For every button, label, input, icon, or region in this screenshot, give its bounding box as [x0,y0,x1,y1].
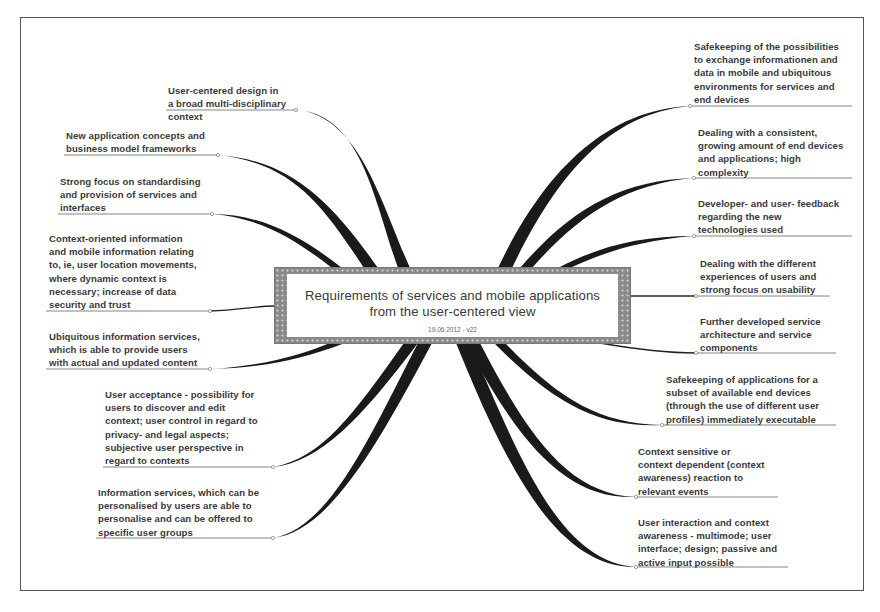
connector-dot-icon [692,176,695,179]
connector-dot-icon [271,536,274,539]
connector-dot-icon [692,234,695,237]
connector-dot-icon [271,465,274,468]
node-right-2[interactable]: Dealing with a consistent, growing amoun… [698,126,843,179]
branch-left-4 [210,306,275,311]
branch-left-2 [218,155,378,268]
connector-dot-icon [208,367,211,370]
branch-left-3 [212,214,342,268]
connector-dot-icon [294,108,297,111]
node-right-6[interactable]: Safekeeping of applications for a subset… [666,373,819,426]
connector-dot-icon [216,153,219,156]
branch-left-7 [273,343,432,538]
node-left-3[interactable]: Strong focus on standardising and provis… [60,175,201,215]
node-left-2[interactable]: New application concepts and business mo… [66,129,205,155]
connector-dot-icon [694,294,697,297]
node-right-5[interactable]: Further developed service architecture a… [700,315,821,355]
node-left-1[interactable]: User-centered design in a broad multi-di… [168,84,286,124]
node-right-8[interactable]: User interaction and context awareness -… [638,516,777,569]
node-right-4[interactable]: Dealing with the different experiences o… [700,257,816,297]
branch-right-5 [600,343,696,353]
central-topic[interactable]: Requirements of services and mobile appl… [275,268,630,343]
node-left-4[interactable]: Context-oriented information and mobile … [49,232,197,311]
central-topic-title: Requirements of services and mobile appl… [287,288,618,320]
connector-dot-icon [688,104,691,107]
connector-dot-icon [660,423,663,426]
connector-dot-icon [694,351,697,354]
node-left-6[interactable]: User acceptance - possibility for users … [105,388,258,467]
node-left-7[interactable]: Information services, which can be perso… [98,486,259,539]
node-right-1[interactable]: Safekeeping of the possibilities to exch… [694,40,839,106]
node-left-5[interactable]: Ubiquitous information services, which i… [49,330,200,370]
branch-left-5 [210,343,345,369]
central-topic-date-version: 19.06.2012 - v22 [287,326,618,333]
node-right-3[interactable]: Developer- and user- feedback regarding … [698,197,839,237]
branch-right-1 [498,106,690,268]
connector-dot-icon [210,212,213,215]
node-right-7[interactable]: Context sensitive or context dependent (… [638,445,765,498]
branch-right-3 [558,236,694,268]
connector-dot-icon [208,309,211,312]
